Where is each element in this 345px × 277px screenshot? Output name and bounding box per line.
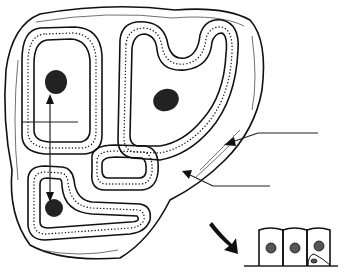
egg-cell-upper — [45, 70, 67, 94]
histology-diagram — [0, 0, 345, 277]
label-line-2 — [182, 170, 270, 186]
egg-cell-lower — [45, 199, 63, 217]
tubule-small-round — [92, 145, 158, 190]
tubule-right-u — [118, 20, 238, 160]
inset-epithelium — [244, 228, 338, 266]
arrow-left-icon — [182, 170, 192, 179]
tubule-left-lower — [28, 166, 150, 240]
arrow-up-icon — [46, 94, 54, 104]
arrow-left-icon — [224, 137, 236, 146]
egg-cell-right — [150, 85, 182, 115]
tubule-left-upper — [22, 27, 102, 154]
curved-arrow-icon — [209, 222, 238, 254]
